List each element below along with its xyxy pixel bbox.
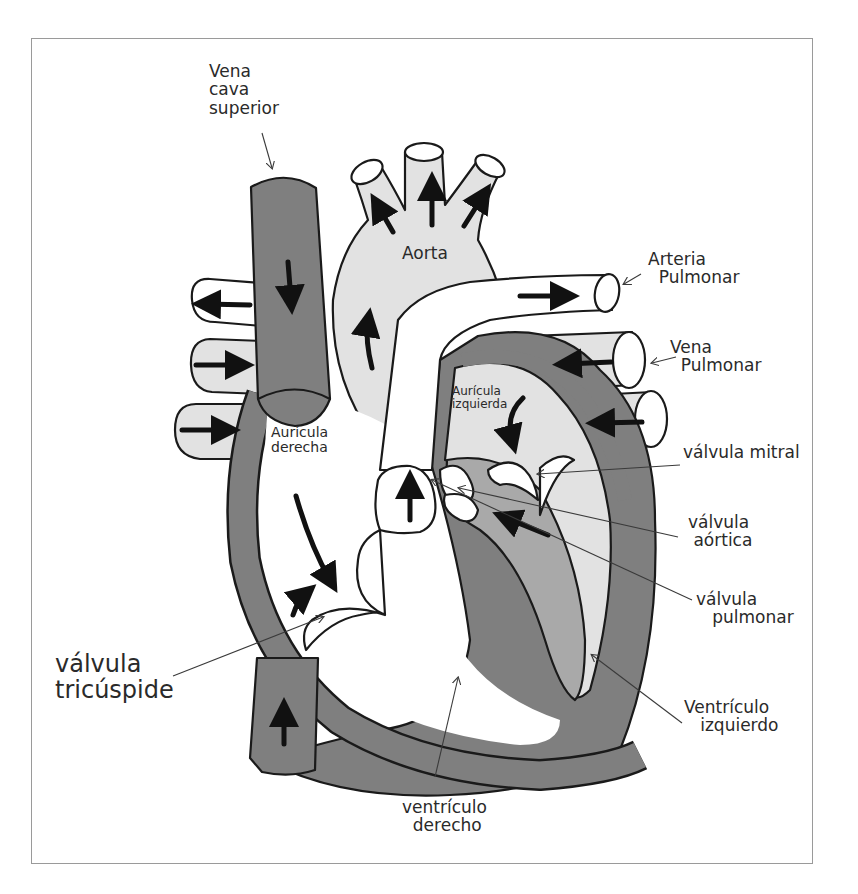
label-valvula-mitral: válvula mitral: [683, 443, 800, 461]
label-valvula-tricuspide: válvula tricúspide: [55, 652, 174, 704]
label-arteria-pulmonar: Arteria Pulmonar: [648, 250, 739, 287]
label-ventriculo-derecho: ventrículo derecho: [402, 798, 487, 835]
valvula-pulmonar: [375, 466, 435, 533]
label-aorta: Aorta: [402, 244, 448, 262]
label-auricula-izquierda: Aurícula izquierda: [452, 385, 507, 411]
label-valvula-pulmonar: válvula pulmonar: [696, 590, 794, 627]
label-vena-cava-superior: Vena cava superior: [209, 62, 279, 117]
label-auricula-derecha: Aurícula derecha: [271, 425, 328, 455]
label-valvula-aortica: válvula aórtica: [688, 513, 752, 550]
label-vena-pulmonar: Vena Pulmonar: [670, 338, 761, 375]
label-ventriculo-izquierdo: Ventrículo izquierdo: [684, 698, 779, 735]
